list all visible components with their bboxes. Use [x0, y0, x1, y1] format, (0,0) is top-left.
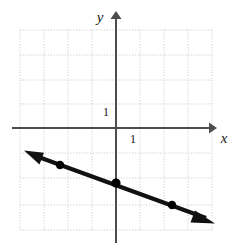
x-tick-label-1: 1 [130, 131, 137, 146]
line-left-arrow-icon [24, 151, 44, 165]
plotted-line [24, 151, 215, 224]
y-axis-arrow-icon [111, 11, 122, 19]
y-axis-label: y [95, 9, 104, 25]
data-point-y-intercept [111, 178, 120, 187]
graph-figure: y x 1 1 [0, 0, 232, 249]
x-axis-arrow-icon [209, 123, 217, 134]
y-tick-label-1: 1 [103, 104, 110, 119]
data-point [168, 201, 176, 209]
coordinate-plane-svg: y x 1 1 [0, 0, 232, 249]
x-axis [12, 123, 217, 134]
x-axis-label: x [220, 130, 228, 146]
data-point [56, 161, 64, 169]
